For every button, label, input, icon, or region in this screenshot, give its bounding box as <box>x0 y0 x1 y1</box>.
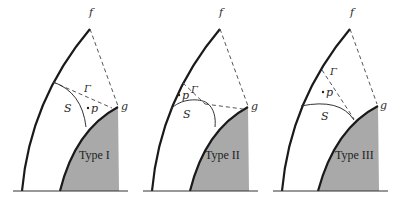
dashed-line-f-g <box>90 29 118 106</box>
panel-type-3: f g Γ S p Type III <box>273 6 388 191</box>
dashed-line-f-g <box>350 29 377 104</box>
label-f: f <box>218 6 225 19</box>
point-p-dot <box>178 94 180 96</box>
label-g: g <box>380 99 387 112</box>
label-gamma: Γ <box>329 66 338 77</box>
point-p-dot <box>87 107 89 109</box>
type-label: Type III <box>335 148 374 162</box>
label-s: S <box>321 110 329 123</box>
label-s: S <box>64 102 72 115</box>
label-gamma: Γ <box>190 84 199 95</box>
label-p: p <box>182 89 189 102</box>
diagram-canvas: f g Γ S p Type I f g Γ S p Type II f g <box>0 0 401 203</box>
label-f: f <box>349 6 356 19</box>
label-p: p <box>326 86 333 99</box>
arc-s <box>170 100 215 127</box>
label-p: p <box>91 102 98 115</box>
label-gamma: Γ <box>83 83 92 94</box>
label-g: g <box>251 100 258 113</box>
label-f: f <box>88 6 95 19</box>
type-label: Type II <box>205 148 240 162</box>
label-s: S <box>183 108 191 121</box>
panel-type-1: f g Γ S p Type I <box>13 6 128 191</box>
dashed-line-f-g <box>220 29 248 106</box>
type-label: Type I <box>79 148 110 162</box>
panel-type-2: f g Γ S p Type II <box>143 6 258 191</box>
label-g: g <box>121 100 128 113</box>
point-p-dot <box>322 91 324 93</box>
